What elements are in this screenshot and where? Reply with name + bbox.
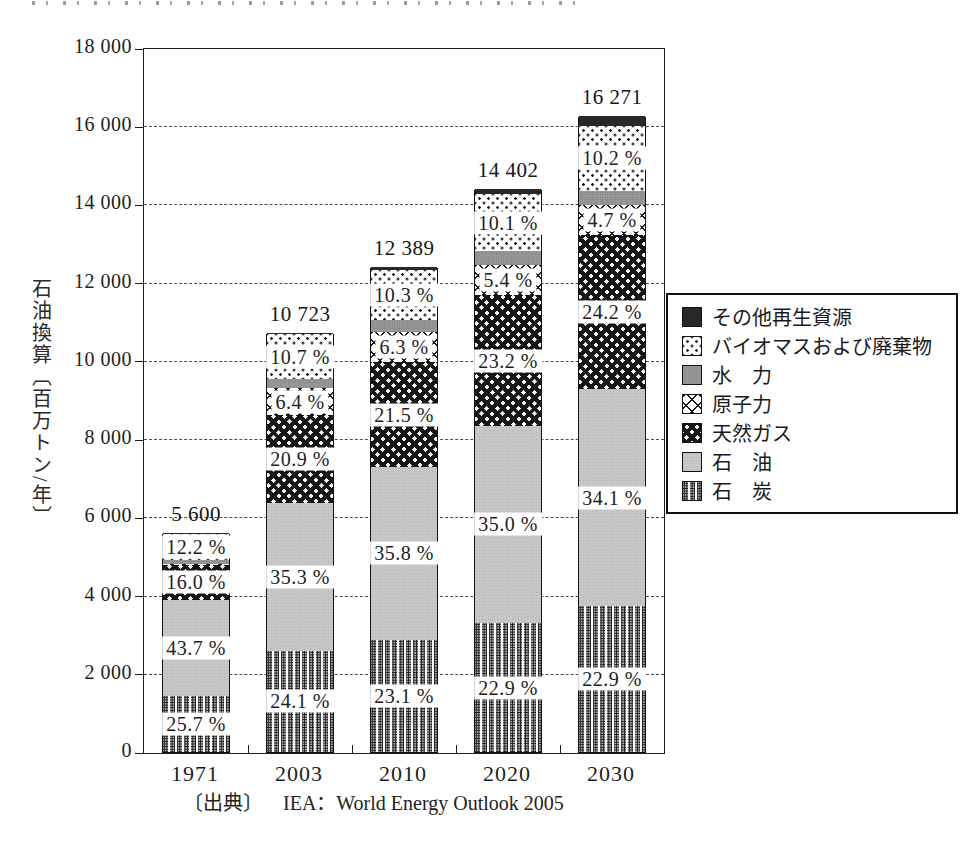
segment-other-2030 [579, 116, 645, 126]
y-tick-label-10000: 10 000 [0, 348, 132, 371]
segment-nuclear-2030: 4.7 % [579, 205, 645, 235]
pct-label-oil-1971: 43.7 % [162, 636, 230, 659]
pct-label-coal-2020: 22.9 % [474, 676, 542, 699]
x-axis-tick-2 [352, 745, 353, 753]
segment-biomass-2030: 10.2 % [579, 126, 645, 191]
x-axis-tick-4 [560, 745, 561, 753]
total-label-2010: 12 389 [374, 236, 435, 261]
segment-coal-2010: 23.1 % [371, 640, 437, 752]
legend-swatch-gas-icon [682, 423, 702, 443]
legend-swatch-coal-icon [682, 481, 702, 501]
segment-biomass-1971: 12.2 % [163, 533, 229, 560]
segment-hydro-2003 [267, 379, 333, 388]
y-tick-label-18000: 18 000 [0, 35, 132, 58]
pct-label-biomass-2030: 10.2 % [578, 147, 646, 170]
legend-item-hydro: 水 力 [682, 360, 956, 389]
x-axis-tick-1 [248, 745, 249, 753]
y-axis-tick-18000 [135, 49, 144, 50]
legend-label-gas: 天然ガス [712, 418, 792, 447]
pct-label-biomass-2003: 10.7 % [266, 345, 334, 368]
pct-label-oil-2010: 35.8 % [370, 542, 438, 565]
bar-2030: 22.9 %34.1 %24.2 %4.7 %10.2 % [578, 117, 646, 753]
y-axis-tick-4000 [135, 596, 144, 597]
y-axis-tick-12000 [135, 283, 144, 284]
segment-coal-2003: 24.1 % [267, 651, 333, 752]
legend-swatch-biomass-icon [682, 336, 702, 356]
legend-item-gas: 天然ガス [682, 418, 956, 447]
segment-coal-2020: 22.9 % [475, 623, 541, 752]
segment-nuclear-2003: 6.4 % [267, 388, 333, 415]
total-label-1971: 5 600 [171, 502, 221, 527]
pct-label-nuclear-2030: 4.7 % [583, 209, 640, 232]
segment-gas-2010: 21.5 % [371, 362, 437, 466]
source-label: 〔出典〕 [183, 792, 263, 814]
legend-item-biomass: バイオマスおよび廃棄物 [682, 331, 956, 360]
segment-hydro-2030 [579, 191, 645, 206]
y-axis-tick-10000 [135, 361, 144, 362]
legend-swatch-hydro-icon [682, 365, 702, 385]
segment-nuclear-2020: 5.4 % [475, 265, 541, 295]
segment-oil-2030: 34.1 % [579, 389, 645, 606]
clipped-caption-fragments [32, 1, 588, 5]
segment-other-2003 [267, 333, 333, 335]
legend-label-hydro: 水 力 [712, 360, 772, 389]
segment-nuclear-2010: 6.3 % [371, 332, 437, 363]
legend-item-nuclear: 原子力 [682, 389, 956, 418]
pct-label-gas-2003: 20.9 % [266, 448, 334, 471]
y-tick-label-0: 0 [0, 739, 132, 762]
segment-hydro-2020 [475, 251, 541, 265]
pct-label-nuclear-2020: 5.4 % [479, 268, 536, 291]
pct-label-biomass-1971: 12.2 % [162, 535, 230, 558]
bar-2003: 24.1 %35.3 %20.9 %6.4 %10.7 % [266, 334, 334, 753]
chart-figure: 石油換算〔百万トン/年〕 25.7 %43.7 %16.0 %12.2 %5 6… [0, 0, 974, 845]
bar-2010: 23.1 %35.8 %21.5 %6.3 %10.3 % [370, 268, 438, 753]
y-tick-label-8000: 8 000 [0, 426, 132, 449]
legend-label-biomass: バイオマスおよび廃棄物 [712, 331, 932, 360]
y-tick-label-14000: 14 000 [0, 191, 132, 214]
segment-oil-2003: 35.3 % [267, 503, 333, 651]
legend-swatch-nuclear-icon [682, 394, 702, 414]
pct-label-oil-2030: 34.1 % [578, 486, 646, 509]
total-label-2003: 10 723 [270, 302, 331, 327]
segment-oil-2010: 35.8 % [371, 467, 437, 640]
legend-item-oil: 石 油 [682, 447, 956, 476]
y-tick-label-2000: 2 000 [0, 661, 132, 684]
legend-swatch-other-icon [682, 307, 702, 327]
y-axis-tick-8000 [135, 440, 144, 441]
pct-label-coal-2003: 24.1 % [266, 690, 334, 713]
segment-coal-1971: 25.7 % [163, 696, 229, 752]
pct-label-gas-1971: 16.0 % [162, 571, 230, 594]
segment-hydro-2010 [371, 320, 437, 332]
source-text: IEA：World Energy Outlook 2005 [283, 792, 564, 814]
bar-2020: 22.9 %35.0 %23.2 %5.4 %10.1 % [474, 190, 542, 753]
segment-gas-2020: 23.2 % [475, 295, 541, 426]
segment-biomass-2020: 10.1 % [475, 194, 541, 251]
y-axis-tick-14000 [135, 205, 144, 206]
pct-label-gas-2030: 24.2 % [578, 301, 646, 324]
segment-gas-2003: 20.9 % [267, 415, 333, 503]
legend-item-other: その他再生資源 [682, 302, 956, 331]
y-axis-tick-6000 [135, 518, 144, 519]
bar-1971: 25.7 %43.7 %16.0 %12.2 % [162, 534, 230, 753]
y-axis-tick-0 [135, 753, 144, 754]
y-tick-label-4000: 4 000 [0, 583, 132, 606]
x-tick-label-2020: 2020 [483, 761, 531, 787]
pct-label-biomass-2020: 10.1 % [474, 211, 542, 234]
pct-label-gas-2020: 23.2 % [474, 349, 542, 372]
x-tick-label-2003: 2003 [275, 761, 323, 787]
legend-label-oil: 石 油 [712, 447, 772, 476]
total-label-2020: 14 402 [478, 158, 539, 183]
plot-area: 25.7 %43.7 %16.0 %12.2 %5 60024.1 %35.3 … [143, 48, 665, 754]
pct-label-nuclear-2003: 6.4 % [271, 390, 328, 413]
y-axis-tick-2000 [135, 674, 144, 675]
x-axis-tick-3 [456, 745, 457, 753]
legend-label-other: その他再生資源 [712, 302, 852, 331]
segment-oil-1971: 43.7 % [163, 600, 229, 696]
legend-box: その他再生資源バイオマスおよび廃棄物水 力原子力天然ガス石 油石 炭 [666, 293, 958, 514]
segment-gas-2030: 24.2 % [579, 235, 645, 389]
y-axis-title: 石油換算〔百万トン/年〕 [26, 278, 55, 528]
total-label-2030: 16 271 [582, 85, 643, 110]
segment-biomass-2010: 10.3 % [371, 270, 437, 320]
segment-oil-2020: 35.0 % [475, 426, 541, 623]
x-tick-label-2010: 2010 [379, 761, 427, 787]
